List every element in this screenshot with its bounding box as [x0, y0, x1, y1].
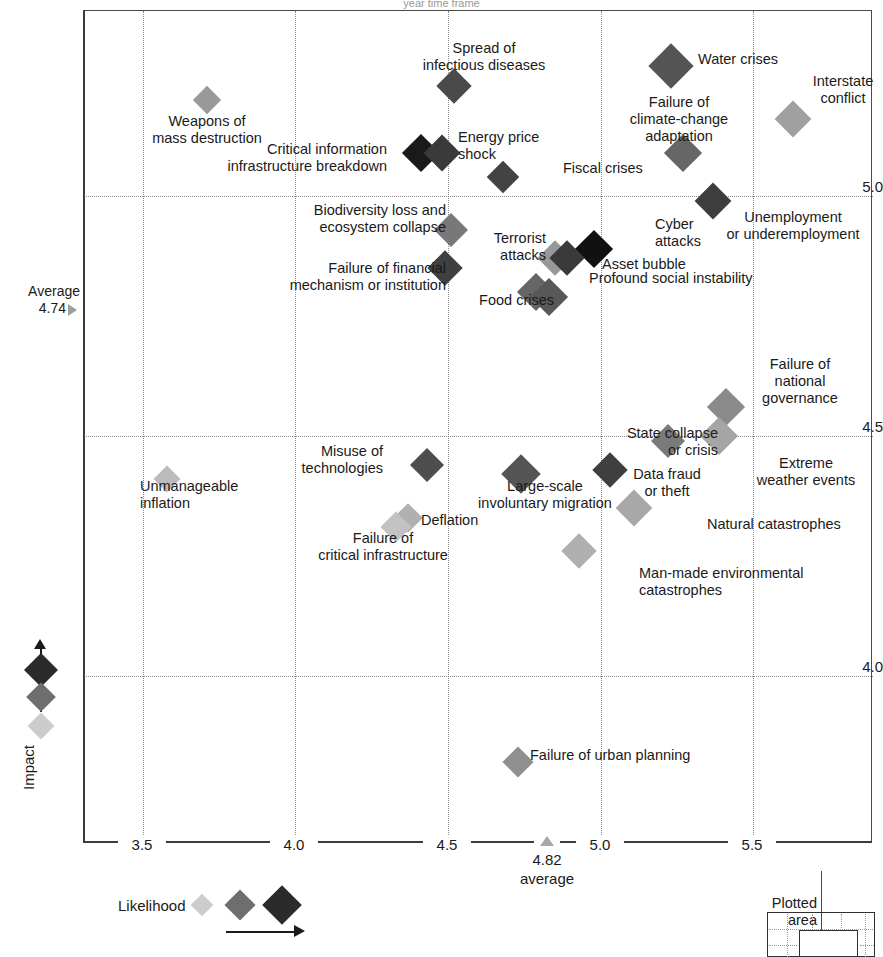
gridline-y-4.0 — [84, 676, 873, 677]
scatter-marker[interactable] — [487, 161, 520, 194]
scatter-marker-label: Failure of urban planning — [530, 747, 690, 764]
plotted-area-inset-grid-h3 — [860, 945, 874, 946]
scatter-marker-label: Failure of climate-change adaptation — [630, 94, 728, 145]
scatter-marker[interactable] — [424, 134, 461, 171]
gridline-x-4.5 — [448, 11, 449, 843]
y-axis-label: Impact — [20, 745, 37, 790]
plotted-area-inset-grid-v4 — [865, 914, 866, 957]
scatter-marker-label: Extreme weather events — [757, 455, 855, 489]
scatter-marker-label: Data fraud or theft — [633, 466, 701, 500]
y-average-caption: Average — [0, 283, 80, 300]
scatter-marker-label: Critical information infrastructure brea… — [227, 141, 387, 175]
plotted-area-inset-grid-v2 — [812, 914, 813, 928]
scatter-marker[interactable] — [774, 101, 811, 138]
scatter-marker-label: Large-scale involuntary migration — [478, 478, 612, 512]
scatter-marker-label: Cyber attacks — [655, 216, 701, 250]
x-tick-4.5: 4.5 — [423, 836, 471, 853]
scatter-marker-label: State collapse or crisis — [627, 425, 718, 459]
scatter-marker-label: Energy price shock — [458, 129, 539, 163]
scatter-marker-label: Failure of national governance — [762, 356, 838, 407]
y-tick-4.5: 4.5 — [809, 418, 883, 435]
y-average-marker-icon — [68, 304, 77, 316]
scatter-marker[interactable] — [193, 86, 221, 114]
scatter-marker-label: Unemployment or underemployment — [727, 209, 860, 243]
scatter-marker-label: Natural catastrophes — [707, 516, 841, 533]
x-average-marker-icon — [540, 836, 554, 846]
scatter-marker-label: Interstate conflict — [813, 73, 873, 107]
scatter-marker[interactable] — [410, 448, 444, 482]
plotted-area-inset-grid-h2 — [769, 945, 797, 946]
scatter-marker-label: Misuse of technologies — [302, 443, 383, 477]
scatter-marker-label: Deflation — [421, 512, 478, 529]
scatter-marker-label: Man-made environmental catastrophes — [639, 565, 803, 599]
impact-axis-arrow-head — [34, 639, 46, 649]
y-tick-4.0: 4.0 — [809, 658, 883, 675]
gridline-x-3.5 — [143, 11, 144, 843]
likelihood-legend-label: Likelihood — [118, 897, 186, 914]
likelihood-arrow-head — [294, 925, 305, 937]
scatter-marker-label: Unmanageable inflation — [140, 478, 238, 512]
gridline-x-5.5 — [753, 11, 754, 843]
plotted-area-inset-grid-v1 — [787, 914, 788, 957]
gridline-y-5.0 — [84, 196, 873, 197]
scatter-marker-label: Water crises — [698, 51, 778, 68]
scatter-marker-label: Failure of critical infrastructure — [318, 530, 448, 564]
scatter-marker-label: Spread of infectious diseases — [423, 40, 546, 74]
scatter-marker[interactable] — [706, 388, 744, 426]
gridline-x-5.0 — [601, 11, 602, 843]
scatter-marker-label: Terrorist attacks — [494, 230, 546, 264]
plotted-area-inset-grid-h1 — [769, 929, 873, 930]
scatter-marker-label: Failure of financial mechanism or instit… — [290, 260, 446, 294]
scatter-marker-label: Food crises — [479, 292, 554, 309]
gridline-y-4.5 — [84, 436, 873, 437]
likelihood-legend-swatch — [224, 889, 255, 920]
chart-title: year time frame — [0, 0, 883, 9]
x-average-value: 4.82 — [497, 850, 597, 869]
plotted-area-inset-inner — [799, 930, 858, 957]
scatter-marker[interactable] — [648, 44, 693, 89]
impact-legend-swatch — [26, 682, 56, 712]
impact-legend-swatch — [28, 713, 55, 740]
x-tick-3.5: 3.5 — [118, 836, 166, 853]
plotted-area-inset-grid-v3 — [841, 914, 842, 928]
scatter-marker-label: Profound social instability — [589, 270, 753, 287]
scatter-marker-label: Fiscal crises — [563, 160, 643, 177]
y-tick-5.0: 5.0 — [809, 178, 883, 195]
x-tick-5.5: 5.5 — [728, 836, 776, 853]
x-average-caption: average — [497, 869, 597, 888]
y-axis-line — [83, 10, 85, 842]
scatter-marker-label: Biodiversity loss and ecosystem collapse — [314, 202, 446, 236]
x-tick-4.0: 4.0 — [270, 836, 318, 853]
gridline-x-4.0 — [295, 11, 296, 843]
likelihood-legend-swatch — [191, 894, 214, 917]
likelihood-arrow-shaft — [226, 931, 298, 933]
scatter-marker[interactable] — [561, 534, 596, 569]
likelihood-legend-swatch — [262, 885, 302, 925]
